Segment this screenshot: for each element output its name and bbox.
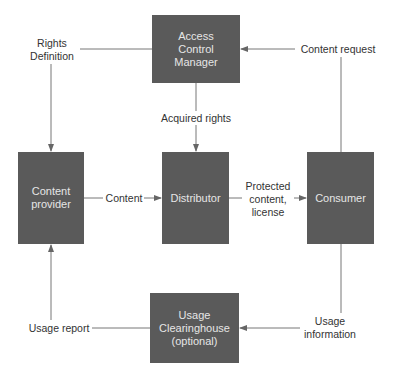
node-label: Consumer <box>315 192 366 205</box>
node-label: Access Control Manager <box>174 30 217 69</box>
node-content-provider: Content provider <box>18 152 84 244</box>
edge-label-content-request: Content request <box>297 43 379 56</box>
node-distributor: Distributor <box>162 152 229 244</box>
edge-label-usage-report: Usage report <box>26 322 92 335</box>
node-usage-clearinghouse: Usage Clearinghouse (optional) <box>150 293 239 363</box>
node-label: Usage Clearinghouse (optional) <box>159 309 230 348</box>
node-access-control-manager: Access Control Manager <box>152 15 240 83</box>
node-label: Distributor <box>170 192 220 205</box>
node-label: Content provider <box>31 185 71 211</box>
edge-label-usage-information: Usage information <box>300 315 360 341</box>
edge-label-acquired-rights: Acquired rights <box>150 112 242 125</box>
edge-label-content: Content <box>104 192 144 205</box>
edge-label-rights-definition: Rights Definition <box>24 37 80 63</box>
edge-label-protected-content: Protected content, license <box>242 180 294 219</box>
node-consumer: Consumer <box>307 152 374 244</box>
